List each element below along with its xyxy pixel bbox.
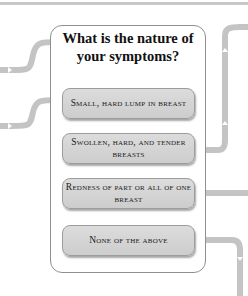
option-label: Small, hard lump in breast [71,98,187,110]
question-title: What is the nature of your symptoms? [50,29,206,65]
option-small-hard-lump[interactable]: Small, hard lump in breast [62,88,195,119]
option-none-of-the-above[interactable]: None of the above [62,225,195,256]
option-label: Redness of part or all of one breast [63,182,194,205]
option-label: None of the above [89,235,167,247]
option4-connector [200,240,240,296]
option2-connector [200,27,248,150]
option-redness[interactable]: Redness of part or all of one breast [62,178,195,209]
option-swollen-tender-breasts[interactable]: Swollen, hard, and tender breasts [62,133,195,164]
option-label: Swollen, hard, and tender breasts [63,137,194,160]
